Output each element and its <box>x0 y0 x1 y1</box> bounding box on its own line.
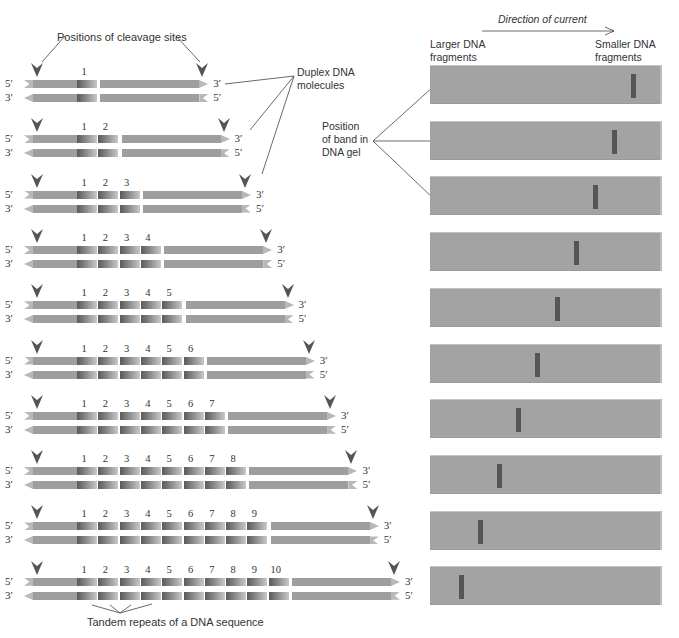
end-label: 5′ <box>5 132 13 144</box>
flank-left <box>33 371 77 379</box>
tandem-repeat <box>77 191 97 199</box>
flank-right <box>228 412 327 420</box>
repeat-number: 6 <box>181 508 201 519</box>
strand-3prime-tip <box>199 80 208 88</box>
repeat-number: 1 <box>74 232 94 243</box>
tandem-repeat <box>98 260 118 268</box>
flank-left <box>33 135 77 143</box>
end-label: 3′ <box>5 589 13 601</box>
repeat-number: 6 <box>181 564 201 575</box>
cleavage-arrow-icon <box>31 229 43 243</box>
repeat-number: 4 <box>138 453 158 464</box>
strand-3prime-tip <box>24 260 33 268</box>
position-band-line1: Position <box>322 120 368 133</box>
tandem-repeat <box>205 592 225 600</box>
tandem-repeat <box>77 260 97 268</box>
flank-right <box>186 301 285 309</box>
repeat-number: 8 <box>223 508 243 519</box>
tandem-repeat <box>141 578 161 586</box>
gel-lane <box>430 511 662 550</box>
end-label: 3′ <box>256 188 264 200</box>
tandem-repeat <box>120 191 140 199</box>
flank-right <box>249 481 348 489</box>
tandem-repeat <box>141 536 161 544</box>
tandem-repeat <box>120 205 140 213</box>
end-label: 5′ <box>405 589 413 601</box>
cleavage-arrow-icon <box>260 229 272 243</box>
cleavage-arrow-icon <box>31 63 43 77</box>
gel-lane <box>430 121 662 160</box>
cleavage-arrow-icon <box>31 174 43 188</box>
gel-lane <box>430 65 662 104</box>
tandem-repeat <box>77 301 97 309</box>
tandem-repeat <box>269 578 289 586</box>
strand-3prime-tip <box>24 315 33 323</box>
end-label: 3′ <box>341 409 349 421</box>
strand-3prime-tip <box>242 191 251 199</box>
flank-right <box>249 467 348 475</box>
repeat-number: 8 <box>223 453 243 464</box>
end-label: 5′ <box>5 464 13 476</box>
flank-left <box>33 80 77 88</box>
tandem-repeat <box>184 578 204 586</box>
repeat-number: 2 <box>95 177 115 188</box>
tandem-repeat <box>247 592 267 600</box>
repeat-number: 7 <box>202 564 222 575</box>
end-label: 3′ <box>5 368 13 380</box>
smaller-line2: fragments <box>595 51 656 64</box>
tandem-repeat <box>162 371 182 379</box>
tandem-repeat <box>162 315 182 323</box>
tandem-repeat <box>205 481 225 489</box>
gel-lane <box>430 344 662 383</box>
tandem-repeat <box>162 592 182 600</box>
tandem-repeat <box>98 371 118 379</box>
tandem-repeat <box>184 357 204 365</box>
tandem-repeat <box>120 481 140 489</box>
end-label: 3′ <box>5 146 13 158</box>
end-label: 5′ <box>5 409 13 421</box>
tandem-repeat <box>184 412 204 420</box>
strand-3prime-tip <box>327 412 336 420</box>
repeat-number: 1 <box>74 398 94 409</box>
flank-right <box>186 315 285 323</box>
strand-3prime-tip <box>24 149 33 157</box>
end-label: 3′ <box>299 298 307 310</box>
repeat-number: 5 <box>159 508 179 519</box>
cleavage-arrow-icon <box>31 340 43 354</box>
tandem-repeat <box>184 481 204 489</box>
tandem-repeat <box>141 467 161 475</box>
end-label: 5′ <box>362 478 370 490</box>
tandem-repeat <box>141 592 161 600</box>
tandem-repeat <box>205 578 225 586</box>
tandem-repeat <box>120 467 140 475</box>
strand-3prime-tip <box>285 301 294 309</box>
flank-right <box>100 80 199 88</box>
tandem-repeat <box>120 412 140 420</box>
flank-right <box>228 426 327 434</box>
repeat-number: 1 <box>74 66 94 77</box>
repeat-number: 4 <box>138 343 158 354</box>
cleavage-arrow-icon <box>345 450 357 464</box>
tandem-repeat <box>226 481 246 489</box>
duplex-dna-label: Duplex DNA molecules <box>297 66 355 92</box>
end-label: 5′ <box>256 202 264 214</box>
tandem-repeat <box>77 536 97 544</box>
repeat-number: 5 <box>159 343 179 354</box>
repeat-number: 4 <box>138 232 158 243</box>
end-label: 3′ <box>235 132 243 144</box>
flank-left <box>33 301 77 309</box>
tandem-repeat <box>205 522 225 530</box>
end-label: 5′ <box>320 368 328 380</box>
tandem-repeat <box>77 481 97 489</box>
end-label: 5′ <box>5 354 13 366</box>
repeat-number: 3 <box>117 453 137 464</box>
tandem-repeat <box>226 522 246 530</box>
gel-band <box>574 241 579 265</box>
flank-right <box>207 357 306 365</box>
tandem-repeat <box>226 592 246 600</box>
flank-right <box>164 246 263 254</box>
end-label: 5′ <box>5 77 13 89</box>
tandem-repeat <box>120 522 140 530</box>
tandem-repeat <box>98 536 118 544</box>
repeat-number: 7 <box>202 508 222 519</box>
